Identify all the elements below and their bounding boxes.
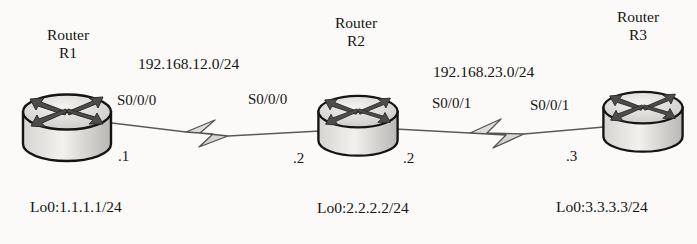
router-icon-r3[interactable]: [598, 76, 688, 168]
interface-label-r3-s0-0-1: S0/0/1: [530, 97, 569, 115]
router-label-r3-line2: R3: [592, 26, 684, 44]
interface-label-r2-s0-0-0: S0/0/0: [248, 91, 287, 109]
router-label-r3-line1: Router: [617, 8, 659, 25]
interface-label-r2-s0-0-1: S0/0/1: [432, 95, 471, 113]
loopback-label-r2: Lo0:2.2.2.2/24: [317, 199, 409, 217]
router-label-r1: Router R1: [22, 26, 114, 63]
network-topology-diagram: Router R1: [0, 0, 697, 244]
interface-label-r1-s0-0-0: S0/0/0: [117, 92, 156, 110]
router-label-r2-line1: Router: [335, 14, 377, 31]
serial-link-icon-r2-r3: [470, 119, 524, 148]
router-label-r3: Router R3: [592, 8, 684, 45]
host-octet-r2-right: .2: [403, 150, 414, 168]
network-label-r1-r2: 192.168.12.0/24: [138, 55, 239, 73]
network-label-r2-r3: 192.168.23.0/24: [433, 63, 534, 81]
link-line-r2-to-bolt2: [395, 129, 470, 133]
host-octet-r3: .3: [566, 148, 577, 166]
router-icon-r2[interactable]: [313, 80, 403, 172]
router-icon-r1[interactable]: [17, 82, 117, 174]
router-label-r2-line2: R2: [310, 32, 402, 50]
router-label-r2: Router R2: [310, 14, 402, 51]
serial-link-icon-r1-r2: [186, 120, 228, 147]
router-label-r1-line2: R1: [22, 44, 114, 62]
host-octet-r1: .1: [118, 148, 129, 166]
link-line-bolt1-to-r2: [228, 131, 320, 136]
link-line-r1-to-bolt1: [112, 123, 186, 132]
host-octet-r2-left: .2: [293, 150, 304, 168]
router-label-r1-line1: Router: [47, 26, 89, 43]
link-line-bolt2-to-r3: [524, 127, 604, 134]
loopback-label-r3: Lo0:3.3.3.3/24: [556, 198, 648, 216]
loopback-label-r1: Lo0:1.1.1.1/24: [30, 198, 122, 216]
